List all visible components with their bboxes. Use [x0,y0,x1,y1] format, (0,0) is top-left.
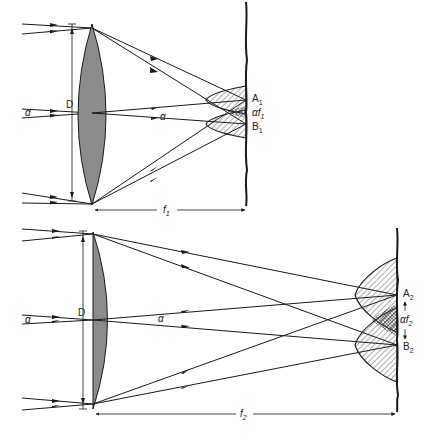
bottom-image-plane [397,228,398,412]
top-outgoing-angle-label: α [160,111,166,122]
bottom-incoming-rays [22,229,93,410]
optics-diagram: D α α A1 αf1 B1 [0,0,434,438]
top-separation-label: αf1 [252,107,264,120]
top-incoming-angle-label: α [25,107,31,118]
bottom-separation-label: αf2 [400,314,412,327]
top-figure: D α α A1 αf1 B1 [22,2,264,217]
bottom-focal-length-label: f2 [240,408,247,421]
bottom-incoming-angle-label: α [25,314,31,325]
bottom-point-a-label: A2 [403,288,414,301]
top-image-plane [246,2,247,206]
bottom-airy-patterns [355,258,397,382]
bottom-outgoing-rays [93,234,397,404]
top-aperture-label: D [66,99,73,110]
top-lens [78,24,106,205]
top-point-b-label: B1 [252,121,263,134]
bottom-point-b-label: B2 [403,341,414,354]
bottom-aperture-label: D [78,307,85,318]
top-focal-length-label: f1 [163,204,170,217]
bottom-outgoing-angle-label: α [158,313,164,324]
bottom-figure: D α α A2 αf2 B2 [22,228,414,421]
top-point-a-label: A1 [252,93,263,106]
